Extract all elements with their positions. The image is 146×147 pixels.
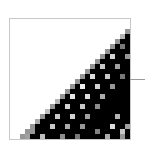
- pattern-thumbnail-frame: [9, 18, 131, 140]
- pixel-pattern-grid: [10, 19, 130, 139]
- axis-tick-marker: [130, 79, 145, 80]
- pattern-cell: [125, 134, 130, 139]
